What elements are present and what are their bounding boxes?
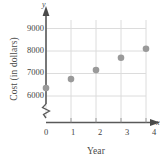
scatter-chart: Cost (in dollars) Year y x 9000 8000 700… <box>0 0 167 165</box>
data-point-3 <box>118 55 125 62</box>
y-axis-line <box>43 6 50 118</box>
data-point-4 <box>143 46 150 53</box>
data-point-2 <box>93 67 100 74</box>
data-point-0 <box>43 85 50 92</box>
plot-area <box>0 0 167 165</box>
x-axis-line <box>46 118 160 126</box>
data-point-1 <box>68 76 75 83</box>
